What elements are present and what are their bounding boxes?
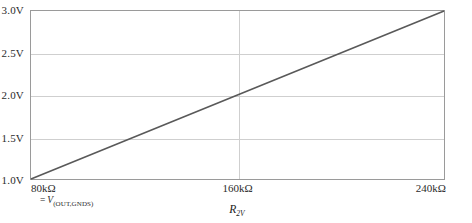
series-plot [31,11,444,179]
series-definition-annotation: =V(OUT,GNDS) [40,195,94,210]
chart-figure: 3.0V 2.5V 2.0V 1.5V 1.0V 80kΩ 160kΩ 240k… [0,0,472,223]
series-line-vout-gnds [31,11,444,179]
x-tick-label-160k: 160kΩ [222,183,252,194]
x-axis-title: R2V [229,203,244,220]
plot-area [30,10,445,180]
x-tick-label-240k: 240kΩ [416,183,446,194]
equals-sign: = [40,195,45,205]
x-tick-label-80k: 80kΩ [31,183,56,194]
voltage-subscript: (OUT,GNDS) [53,200,93,208]
x-axis-title-subscript: 2V [236,209,244,218]
x-axis-title-symbol: R [229,203,236,215]
